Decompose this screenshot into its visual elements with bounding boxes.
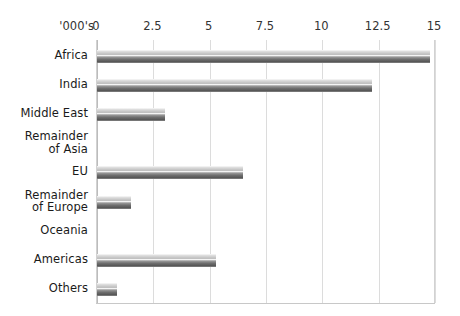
category-label: India (59, 78, 88, 91)
bar-row: Africa (0, 40, 460, 69)
bar (97, 196, 131, 209)
x-tick-label: 5 (205, 19, 212, 33)
bar-chart: '000's 02.557.51012.515 AfricaIndiaMiddl… (0, 0, 460, 316)
x-tick-label: 7.5 (256, 19, 274, 33)
bar (97, 108, 165, 121)
plot-right-edge (434, 40, 435, 303)
x-tick-label: 0 (92, 19, 99, 33)
bar-rows: AfricaIndiaMiddle EastRemainder of AsiaE… (0, 40, 460, 303)
bar-track (97, 79, 372, 92)
x-tick-label: 2.5 (143, 19, 161, 33)
bar-row: Remainder of Asia (0, 128, 460, 157)
bar-track (97, 196, 131, 209)
x-tick-label: 12.5 (365, 19, 391, 33)
x-axis-header: '000's 02.557.51012.515 (0, 0, 460, 40)
bar-row: Middle East (0, 98, 460, 127)
bar-row: EU (0, 157, 460, 186)
category-label: EU (72, 165, 88, 178)
bar-row: India (0, 69, 460, 98)
bar (97, 283, 117, 296)
category-label: Oceania (40, 224, 88, 237)
bar-track (97, 166, 243, 179)
bar-row: Oceania (0, 215, 460, 244)
bar-track (97, 254, 216, 267)
category-label: Middle East (20, 107, 88, 120)
x-tick-label: 10 (314, 19, 329, 33)
x-tick-label: 15 (427, 19, 442, 33)
category-label: Africa (55, 48, 88, 61)
bar-track (97, 50, 430, 63)
category-label: Remainder of Asia (25, 130, 88, 155)
bar (97, 166, 243, 179)
category-label: Others (49, 282, 88, 295)
bar-row: Others (0, 274, 460, 303)
bar-row: Remainder of Europe (0, 186, 460, 215)
category-label: Americas (34, 253, 88, 266)
bar-track (97, 283, 117, 296)
category-label: Remainder of Europe (25, 188, 88, 213)
bar (97, 254, 216, 267)
bar-track (97, 108, 165, 121)
bar-row: Americas (0, 245, 460, 274)
axis-unit-label: '000's (59, 19, 94, 33)
bar (97, 50, 430, 63)
axis-baseline (96, 303, 435, 304)
bar (97, 79, 372, 92)
